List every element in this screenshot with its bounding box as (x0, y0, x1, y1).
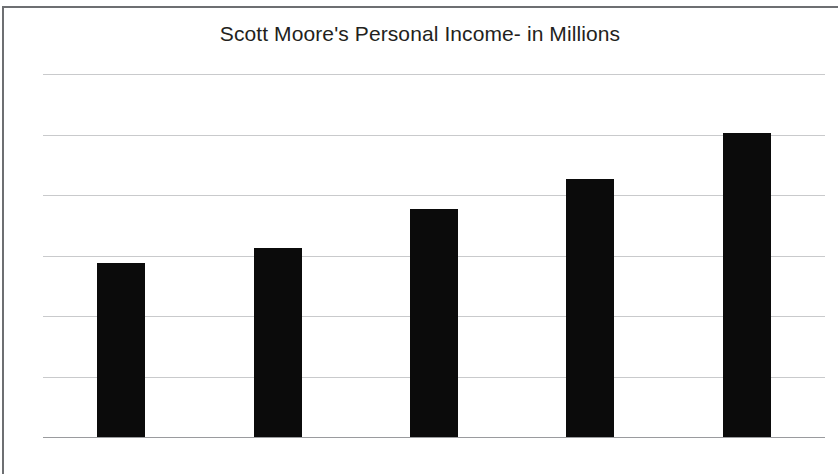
chart-container: Scott Moore's Personal Income- in Millio… (0, 0, 840, 474)
bar-2013 (723, 133, 771, 437)
chart-title: Scott Moore's Personal Income- in Millio… (0, 22, 840, 46)
gridline (43, 135, 825, 136)
bar-2009 (97, 263, 145, 437)
x-axis-line (43, 437, 825, 438)
page-border-top (2, 6, 838, 8)
bar-2011 (410, 209, 458, 437)
plot-area: 1.210.80.60.40.2020092010201120122013 (43, 74, 825, 437)
bar-2012 (566, 179, 614, 437)
gridline (43, 195, 825, 196)
page-border-left (2, 6, 4, 474)
gridline (43, 74, 825, 75)
bar-2010 (254, 248, 302, 437)
